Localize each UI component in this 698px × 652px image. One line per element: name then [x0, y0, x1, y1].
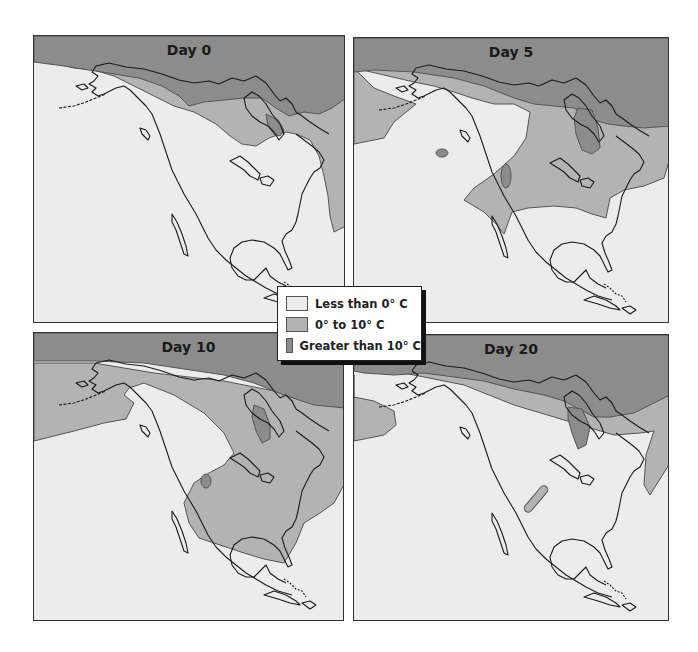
legend-item-mid: 0° to 10° C — [286, 314, 421, 335]
map-panel-day-0: Day 0 — [33, 35, 345, 323]
legend-label: 0° to 10° C — [315, 318, 384, 332]
map-day-5 — [354, 38, 669, 323]
map-panel-day-5: Day 5 — [353, 37, 669, 323]
panel-title: Day 5 — [354, 44, 668, 60]
legend-item-cold: Less than 0° C — [286, 293, 421, 314]
swatch-icon-less-than-0 — [286, 296, 308, 311]
swatch-icon-greater-than-10 — [286, 338, 293, 353]
map-panel-day-10: Day 10 — [33, 332, 344, 621]
map-panel-day-20: Day 20 — [353, 334, 669, 621]
panel-title: Day 0 — [34, 42, 344, 58]
legend-item-warm: Greater than 10° C — [286, 335, 421, 356]
map-day-10 — [34, 333, 344, 621]
legend-label: Greater than 10° C — [300, 339, 421, 353]
map-day-20 — [354, 335, 669, 621]
legend: Less than 0° C 0° to 10° C Greater than … — [277, 286, 422, 361]
swatch-icon-0-to-10 — [286, 317, 308, 332]
legend-label: Less than 0° C — [315, 297, 408, 311]
map-day-0 — [34, 36, 345, 323]
